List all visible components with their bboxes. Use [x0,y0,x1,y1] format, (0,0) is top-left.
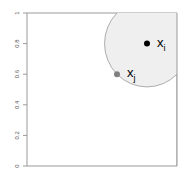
y-axis: 00.20.40.60.81 [14,11,27,168]
y-tick-label: 0.6 [14,69,20,78]
label-subscript: j [133,73,136,83]
y-tick-label: 0 [14,164,20,168]
label-subscript: i [164,43,166,53]
y-tick-label: 0.4 [14,100,20,109]
chart: 00.20.40.60.81 xixj [0,0,187,177]
y-tick-label: 1 [14,11,20,15]
y-tick-label: 0.2 [14,131,20,140]
neighborhood-circle-group [105,0,187,166]
point-x-j [114,71,120,77]
point-x-i [144,41,150,47]
y-tick-label: 0.8 [14,39,20,48]
